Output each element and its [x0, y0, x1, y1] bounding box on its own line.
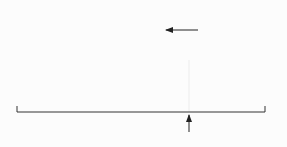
- normal-curve-chart: [0, 0, 287, 147]
